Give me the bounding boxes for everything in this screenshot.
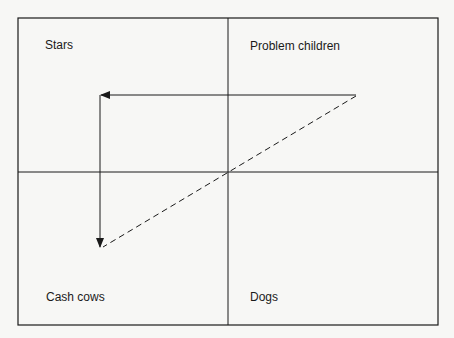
quadrant-label-stars: Stars [45, 38, 73, 52]
quadrant-label-problem-children: Problem children [250, 39, 340, 53]
quadrant-label-dogs: Dogs [250, 290, 278, 304]
quadrant-label-cash-cows: Cash cows [46, 290, 105, 304]
